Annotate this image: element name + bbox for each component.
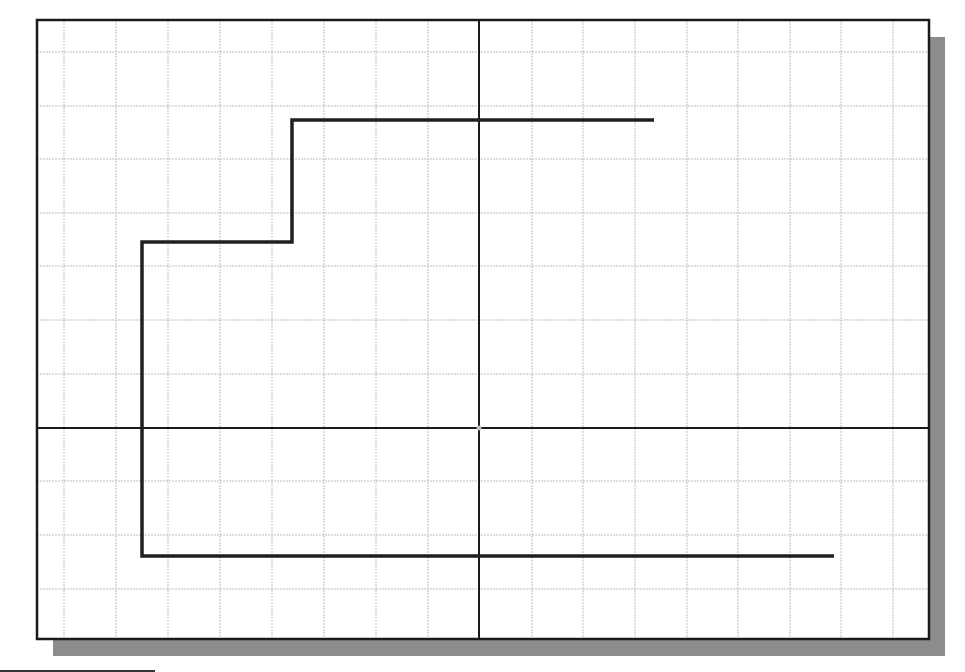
grid-paper bbox=[37, 20, 929, 639]
grid-drawing bbox=[0, 0, 965, 672]
origin-marker bbox=[477, 426, 482, 431]
drawing-canvas bbox=[0, 0, 965, 672]
